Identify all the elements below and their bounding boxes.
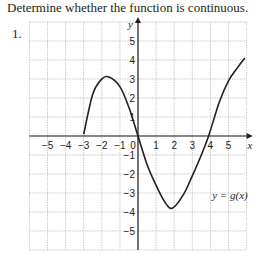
y-tick-label: 4 [129,55,135,66]
x-tick-label: −5 [42,140,54,151]
x-tick-label: 4 [208,140,214,151]
x-tick-label: 3 [190,140,196,151]
y-axis-label: y [127,18,133,30]
x-tick-label: 5 [226,140,232,151]
x-tick-label: 1 [153,140,159,151]
y-tick-label: −3 [124,188,136,199]
x-tick-label: −3 [78,140,90,151]
x-axis-label: x [247,139,253,151]
y-tick-label: −2 [124,169,136,180]
y-tick-label: −5 [124,226,136,237]
y-tick-label: 2 [129,93,135,104]
y-tick-label: 5 [129,36,135,47]
x-tick-label: −2 [96,140,108,151]
function-graph: xy−5−4−3−2−101234554321−1−2−3−4−5y = g(x… [0,0,269,264]
y-axis-arrow-icon [135,17,141,23]
x-tick-label: −4 [60,140,72,151]
y-tick-label: −4 [124,207,136,218]
function-label: y = g(x) [211,189,248,202]
y-tick-label: 3 [129,74,135,85]
y-tick-label: −1 [124,150,136,161]
function-curve [84,58,245,208]
x-tick-label: 2 [171,140,177,151]
